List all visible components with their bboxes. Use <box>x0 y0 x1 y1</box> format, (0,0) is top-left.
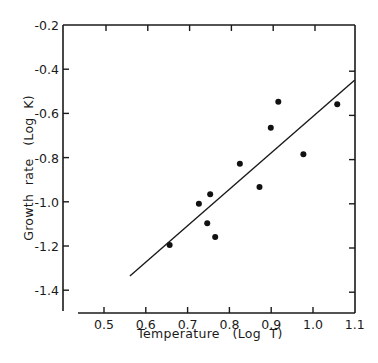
scatter-chart: 0.50.60.70.80.91.01.1 -0.2-0.4-0.6-0.8-1… <box>0 0 378 363</box>
regression-line <box>130 80 355 276</box>
y-tick-label: -0.4 <box>35 62 59 77</box>
plot-frame <box>63 25 355 313</box>
x-tick-label: 1.0 <box>303 317 323 332</box>
x-axis-title: Temperature (Log T) <box>136 326 282 341</box>
data-point <box>196 201 202 207</box>
x-tick-label: 0.5 <box>94 317 114 332</box>
data-point <box>207 191 213 197</box>
data-point <box>204 220 210 226</box>
y-tick-label: -1.2 <box>35 239 59 254</box>
x-tick-label: 1.1 <box>345 317 365 332</box>
y-axis-title: Growth rate (Log K) <box>21 95 36 241</box>
data-point <box>268 125 274 131</box>
data-point <box>275 99 281 105</box>
x-axis-ticks <box>104 25 315 313</box>
y-axis-ticks <box>63 69 355 292</box>
y-axis-tick-labels: -0.2-0.4-0.6-0.8-1.0-1.2-1.4 <box>35 18 59 298</box>
data-point <box>334 101 340 107</box>
y-tick-label: -0.8 <box>35 151 59 166</box>
y-tick-label: -0.2 <box>35 18 59 33</box>
data-point <box>256 184 262 190</box>
data-point <box>300 151 306 157</box>
data-point <box>212 234 218 240</box>
y-tick-label: -1.4 <box>35 283 59 298</box>
data-point <box>237 161 243 167</box>
y-tick-label: -0.6 <box>35 106 59 121</box>
data-series <box>130 80 355 276</box>
y-tick-label: -1.0 <box>35 195 59 210</box>
